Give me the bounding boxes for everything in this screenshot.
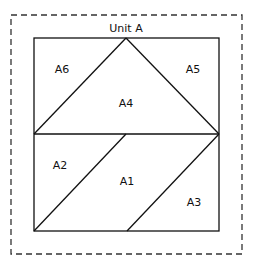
piece-label-a6: A6 (55, 63, 70, 76)
piece-label-a1: A1 (120, 175, 135, 188)
piece-label-a3: A3 (187, 196, 202, 209)
left-roof-seam (34, 38, 126, 134)
left-diagonal-seam (34, 134, 126, 231)
unit-title: Unit A (109, 22, 143, 35)
piece-label-a5: A5 (186, 63, 201, 76)
right-roof-seam (126, 38, 219, 134)
quilt-unit-diagram: Unit A A6 A5 A4 A2 A1 A3 (0, 0, 253, 264)
piece-label-a2: A2 (53, 159, 68, 172)
piece-label-a4: A4 (119, 97, 134, 110)
right-diagonal-seam (127, 134, 219, 231)
